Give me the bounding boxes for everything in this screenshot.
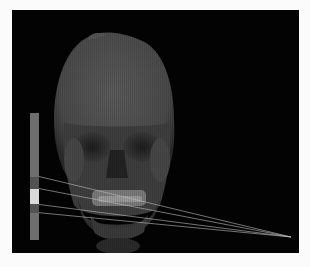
depth-bar-lower-range — [30, 213, 39, 240]
depth-bar-upper-margin — [30, 177, 39, 189]
depth-bar-lower-margin — [30, 204, 39, 212]
skull-render — [12, 10, 299, 253]
depth-bar-selected-slab — [30, 189, 39, 205]
depth-bar-upper-range — [30, 113, 39, 177]
render-viewport[interactable] — [12, 10, 299, 253]
